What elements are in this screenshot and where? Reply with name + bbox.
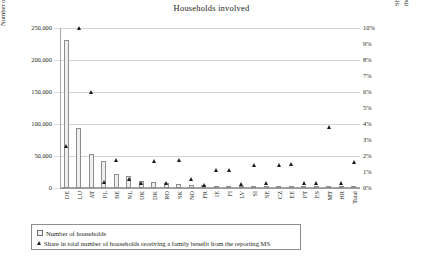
x-tick-label: HR: [335, 190, 348, 220]
bar: [226, 186, 231, 188]
bar-cell: [248, 28, 261, 188]
chart-title: Households involved: [0, 3, 423, 13]
bar-cell: [235, 28, 248, 188]
x-tick-label: ES: [310, 190, 323, 220]
bar: [351, 186, 356, 188]
x-tick-label: FI: [223, 190, 236, 220]
x-tick-label: AT: [85, 190, 98, 220]
y-tick-label-right: 6%: [363, 89, 389, 95]
x-tick-label: FR: [198, 190, 211, 220]
bar: [314, 186, 319, 188]
triangle-marker-icon: [37, 241, 41, 245]
bar-cell: [223, 28, 236, 188]
bar: [126, 176, 131, 188]
y-tick-label-right: 9%: [363, 41, 389, 47]
bar-cell: [273, 28, 286, 188]
y-tick-label-left: 100,000 —: [0, 121, 60, 127]
bar-cell: [210, 28, 223, 188]
y-tick-label-left: 50,000 —: [0, 153, 60, 159]
gridline: [60, 188, 360, 189]
x-tick-label: SE: [260, 190, 273, 220]
x-tick-label: LV: [235, 190, 248, 220]
bar: [276, 186, 281, 188]
bar-cell: [323, 28, 336, 188]
legend-label-share: Share in total number of households rece…: [44, 239, 270, 248]
bar-cell: [73, 28, 86, 188]
bar: [89, 154, 94, 188]
bar-cell: [298, 28, 311, 188]
bar-cell: [98, 28, 111, 188]
x-tick-label: NL: [123, 190, 136, 220]
bar-cell: [310, 28, 323, 188]
plot-area: [60, 28, 360, 188]
bar-cell: [85, 28, 98, 188]
y-axis-left-title: Number of households residing in another…: [0, 0, 8, 26]
x-tick-label: PL: [98, 190, 111, 220]
y-tick-label-right: 5%: [363, 105, 389, 111]
y-tick-label-right: 4%: [363, 121, 389, 127]
bar: [239, 186, 244, 188]
bar: [326, 186, 331, 188]
x-tick-label: NO: [185, 190, 198, 220]
x-tick-label: LU: [73, 190, 86, 220]
bar: [114, 174, 119, 188]
x-tick-label: UK: [135, 190, 148, 220]
y-tick-label-right: 3%: [363, 137, 389, 143]
bar: [301, 186, 306, 188]
x-tick-label: RO: [160, 190, 173, 220]
x-tick-label: MT: [323, 190, 336, 220]
bar: [264, 186, 269, 188]
y-tick-label-left: 0 —: [0, 185, 60, 191]
x-axis-category-labels: DELUATPLBENLUKDKROSKNOFRIEFILVSISECZEEPT…: [60, 190, 360, 220]
x-tick-label: CZ: [273, 190, 286, 220]
legend-item-share: Share in total number of households rece…: [37, 238, 295, 248]
y-tick-label-right: 1%: [363, 169, 389, 175]
y-tick-label-right: 10%: [363, 25, 389, 31]
chart-legend: Number of households Share in total numb…: [31, 224, 301, 250]
bar: [151, 182, 156, 188]
legend-label-households: Number of households: [46, 229, 106, 238]
square-marker-icon: [37, 230, 43, 236]
x-tick-label: DE: [60, 190, 73, 220]
y-axis-right-title: Share in total number of households rece…: [392, 0, 418, 6]
bar-cell: [285, 28, 298, 188]
x-tick-label: PT: [298, 190, 311, 220]
bar-cell: [148, 28, 161, 188]
bar-cell: [260, 28, 273, 188]
bar: [64, 40, 69, 188]
bar-cell: [173, 28, 186, 188]
y-tick-label-right: 2%: [363, 153, 389, 159]
bar: [76, 128, 81, 188]
bar: [201, 185, 206, 188]
bar-cell: [198, 28, 211, 188]
x-tick-label: BE: [110, 190, 123, 220]
bar-cell: [123, 28, 136, 188]
x-tick-label: SK: [173, 190, 186, 220]
bar: [214, 186, 219, 188]
bar-cell: [110, 28, 123, 188]
bar-series: [60, 28, 360, 188]
x-tick-label: DK: [148, 190, 161, 220]
x-tick-label: EE: [285, 190, 298, 220]
y-tick-label-left: 250,000 —: [0, 25, 60, 31]
y-tick-label-right: 8%: [363, 57, 389, 63]
legend-item-households: Number of households: [37, 228, 295, 238]
bar: [339, 186, 344, 188]
x-tick-label: IE: [210, 190, 223, 220]
bar: [176, 184, 181, 188]
y-tick-label-left: 200,000 —: [0, 57, 60, 63]
y-tick-label-left: 150,000 —: [0, 89, 60, 95]
bar: [289, 186, 294, 188]
bar: [164, 183, 169, 188]
bar-cell: [185, 28, 198, 188]
bar: [189, 185, 194, 188]
y-tick-label-right: 7%: [363, 73, 389, 79]
x-tick-label: SI: [248, 190, 261, 220]
bar: [139, 181, 144, 188]
x-tick-label: Total: [348, 190, 361, 220]
y-tick-label-right: 0%: [363, 185, 389, 191]
bar: [251, 186, 256, 188]
bar-cell: [335, 28, 348, 188]
bar-cell: [160, 28, 173, 188]
bar: [101, 161, 106, 188]
